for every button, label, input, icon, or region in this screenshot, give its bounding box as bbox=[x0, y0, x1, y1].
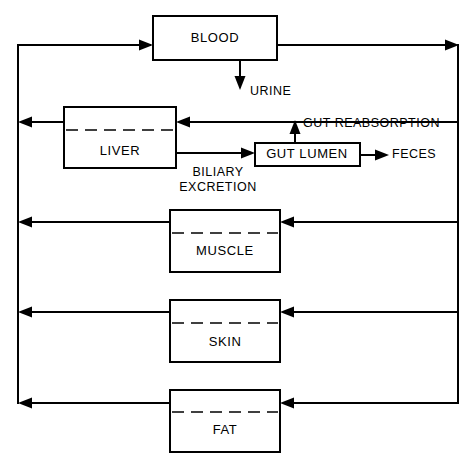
arrowhead-into-skin bbox=[280, 307, 294, 318]
compartment-muscle-label: MUSCLE bbox=[196, 243, 254, 258]
compartment-gut-lumen[interactable]: GUT LUMEN bbox=[255, 143, 360, 166]
compartment-fat[interactable]: FAT bbox=[170, 390, 280, 452]
arrowhead-into-muscle bbox=[280, 217, 294, 228]
arrowhead-into-fat bbox=[280, 398, 294, 409]
compartment-skin[interactable]: SKIN bbox=[170, 300, 280, 362]
arrowhead-muscle-return bbox=[18, 217, 32, 228]
compartment-blood[interactable]: BLOOD bbox=[153, 16, 277, 60]
arrowhead-feces bbox=[375, 150, 389, 161]
flow-label-feces: FECES bbox=[392, 147, 436, 161]
arrowhead-into-blood bbox=[139, 40, 153, 51]
compartment-gut-lumen-label: GUT LUMEN bbox=[266, 146, 348, 161]
compartment-muscle[interactable]: MUSCLE bbox=[170, 210, 280, 272]
compartment-liver[interactable]: LIVER bbox=[64, 107, 176, 168]
flow-label-biliary-excretion-line-1: BILIARY bbox=[192, 165, 243, 179]
compartment-liver-rect bbox=[64, 107, 176, 168]
compartment-liver-label: LIVER bbox=[100, 143, 141, 158]
flow-label-gut-reabsorption: GUT REABSORPTION bbox=[303, 116, 440, 130]
arrowhead-skin-return bbox=[18, 307, 32, 318]
arrowhead-urine bbox=[235, 76, 246, 90]
compartment-skin-label: SKIN bbox=[209, 334, 242, 349]
flow-labels: URINE GUT REABSORPTION FECES BILIARY EXC… bbox=[179, 84, 440, 194]
arrowhead-fat-return bbox=[18, 398, 32, 409]
pharmacokinetic-diagram: BLOOD LIVER GUT LUMEN MUSCLE SKIN FAT bbox=[0, 0, 471, 465]
compartment-skin-rect bbox=[170, 300, 280, 362]
arrowhead-into-liver bbox=[176, 117, 190, 128]
arrowhead-into-gut-lumen bbox=[241, 148, 255, 159]
flow-label-biliary-excretion-line-2: EXCRETION bbox=[179, 180, 256, 194]
compartment-fat-rect bbox=[170, 390, 280, 452]
compartment-blood-label: BLOOD bbox=[191, 30, 240, 45]
compartment-fat-label: FAT bbox=[213, 422, 238, 437]
diagram-canvas: BLOOD LIVER GUT LUMEN MUSCLE SKIN FAT bbox=[0, 0, 471, 465]
compartment-muscle-rect bbox=[170, 210, 280, 272]
arrowhead-top-right-bus bbox=[445, 40, 459, 51]
flow-label-urine: URINE bbox=[250, 84, 291, 98]
arrowhead-liver-return bbox=[18, 117, 32, 128]
